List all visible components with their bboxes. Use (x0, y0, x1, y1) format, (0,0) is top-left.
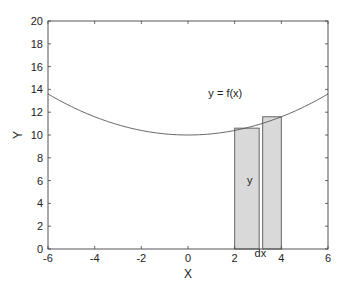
integration-rectangle (263, 117, 282, 249)
annotation-label: y (247, 174, 253, 186)
annotation-label: dx (255, 247, 267, 259)
y-tick-label: 12 (31, 106, 43, 118)
y-tick-label: 18 (31, 38, 43, 50)
y-tick-label: 6 (37, 175, 43, 187)
x-tick-label: -6 (43, 252, 53, 264)
annotation-label: y = f(x) (208, 87, 242, 99)
x-tick-label: -2 (136, 252, 146, 264)
x-tick-label: 4 (278, 252, 284, 264)
chart: -6-4-20246 02468101214161820 y = f(x)ydx… (0, 0, 348, 295)
y-tick-label: 8 (37, 152, 43, 164)
y-tick-label: 0 (37, 243, 43, 255)
x-tick-label: 6 (325, 252, 331, 264)
x-tick-label: 2 (232, 252, 238, 264)
x-tick-label: -4 (90, 252, 100, 264)
y-tick-label: 10 (31, 129, 43, 141)
y-axis-label: Y (11, 131, 25, 139)
y-tick-label: 4 (37, 197, 43, 209)
y-tick-label: 2 (37, 220, 43, 232)
x-axis-label: X (184, 267, 192, 281)
function-curve (48, 94, 328, 135)
x-axis-ticks: -6-4-20246 (43, 21, 331, 264)
x-tick-label: 0 (185, 252, 191, 264)
integration-rectangle (235, 128, 260, 249)
integration-rectangles (235, 117, 282, 249)
y-tick-label: 20 (31, 15, 43, 27)
y-tick-label: 14 (31, 83, 43, 95)
y-tick-label: 16 (31, 61, 43, 73)
